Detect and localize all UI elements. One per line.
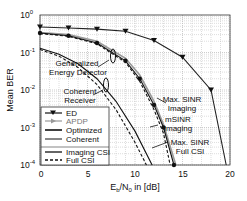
circle-marker-icon (152, 103, 156, 107)
ytick-1: 10-1 (20, 47, 35, 58)
annotation-msinr-2: Imaging (164, 124, 192, 133)
annotation-maxsinr-1: Max. SINR (163, 95, 202, 104)
legend-coherent: Coherent (66, 135, 100, 144)
annotation-maxsinr-2: Imaging (168, 104, 196, 113)
legend-optimized: Optimized (66, 126, 102, 135)
legend-full-csi: Full CSI (66, 156, 94, 165)
annotation-coh-1: Coherent (64, 87, 98, 96)
xtick-5: 5 (86, 169, 91, 179)
circle-marker-icon (172, 163, 176, 167)
ber-chart: Generalized Energy Detector Coherent Rec… (0, 0, 247, 201)
annotation-ged-2: Energy Detector (49, 68, 107, 77)
annotation-ged-1: Generalized (55, 59, 98, 68)
y-axis-label: Mean BER (5, 68, 15, 112)
x-axis-label: Eb/N0 in [dB] (110, 182, 160, 193)
ytick-2: 10-2 (20, 84, 35, 95)
xtick-0: 0 (39, 169, 44, 179)
annotation-maxfull-2: Full CSI (176, 147, 204, 156)
legend-apdp: APDP (66, 117, 88, 126)
ytick-3: 10-3 (20, 122, 35, 133)
annotation-msinr-1: mSINR (165, 115, 191, 124)
annotation-maxfull-1: Max. SINR (171, 138, 210, 147)
xtick-15: 15 (178, 169, 188, 179)
ytick-4: 10-4 (20, 159, 35, 170)
legend: ED APDP Optimized Coherent Imaging CSI F… (41, 107, 110, 165)
xtick-20: 20 (225, 169, 235, 179)
xtick-10: 10 (130, 169, 140, 179)
ytick-0: 100 (20, 9, 33, 20)
annotation-coh-2: Receiver (64, 96, 96, 105)
circle-marker-icon (38, 31, 42, 35)
